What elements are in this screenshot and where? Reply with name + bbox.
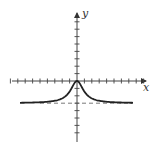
y-axis-label: y [81, 7, 89, 20]
x-axis-label: x [143, 81, 150, 94]
function-graph: x y [0, 0, 155, 156]
